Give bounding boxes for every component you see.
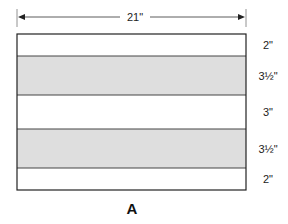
- strip-white: [17, 95, 246, 129]
- strips: [17, 34, 246, 190]
- width-label: 21": [127, 11, 143, 23]
- strip-shaded: [17, 129, 246, 168]
- arrowhead-right-icon: [238, 14, 245, 20]
- strip-white: [17, 34, 246, 56]
- strip-height-label: 3": [263, 106, 273, 118]
- strip-height-label: 2": [263, 173, 273, 185]
- strip-height-label: 3½": [258, 143, 277, 155]
- strip-height-label: 2": [263, 39, 273, 51]
- strip-diagram: 21" 2"3½"3"3½"2" A: [0, 0, 288, 224]
- height-labels: 2"3½"3"3½"2": [258, 39, 277, 185]
- width-dimension: 21": [17, 9, 246, 27]
- strip-white: [17, 168, 246, 190]
- strip-height-label: 3½": [258, 70, 277, 82]
- strip-shaded: [17, 56, 246, 95]
- figure-label: A: [127, 200, 138, 217]
- arrowhead-left-icon: [18, 14, 25, 20]
